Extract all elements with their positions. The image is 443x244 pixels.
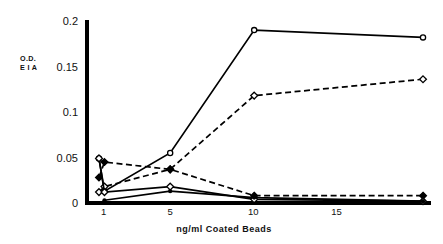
x-axis-title: ng/ml Coated Beads bbox=[176, 224, 272, 234]
y-axis-tick-label: 0.1 bbox=[63, 106, 78, 118]
y-axis-tick-label: 0 bbox=[72, 197, 78, 209]
line-chart: O.D. E I A 00.050.10.150.2 151015 ng/ml … bbox=[0, 0, 443, 244]
data-point-marker bbox=[252, 195, 256, 199]
data-point-marker bbox=[420, 35, 425, 40]
x-axis-tick-label: 5 bbox=[168, 206, 173, 217]
y-axis-title: O.D. E I A bbox=[20, 54, 37, 72]
data-point-marker bbox=[168, 189, 172, 193]
y-axis-title-line2: E I A bbox=[20, 63, 37, 72]
x-axis-tick-label: 1 bbox=[101, 206, 106, 217]
y-axis-tick-label: 0.2 bbox=[63, 15, 78, 27]
chart-background bbox=[0, 0, 443, 244]
x-axis-tick-label: 15 bbox=[331, 206, 342, 217]
data-point-marker bbox=[102, 198, 106, 202]
chart-container: O.D. E I A 00.050.10.150.2 151015 ng/ml … bbox=[0, 0, 443, 244]
y-axis-title-line1: O.D. bbox=[20, 54, 36, 63]
x-axis-tick-label: 10 bbox=[248, 206, 259, 217]
data-point-marker bbox=[421, 199, 425, 203]
y-axis-tick-label: 0.15 bbox=[57, 61, 78, 73]
data-point-marker bbox=[168, 150, 173, 155]
data-point-marker bbox=[252, 28, 257, 33]
y-axis-tick-label: 0.05 bbox=[57, 152, 78, 164]
